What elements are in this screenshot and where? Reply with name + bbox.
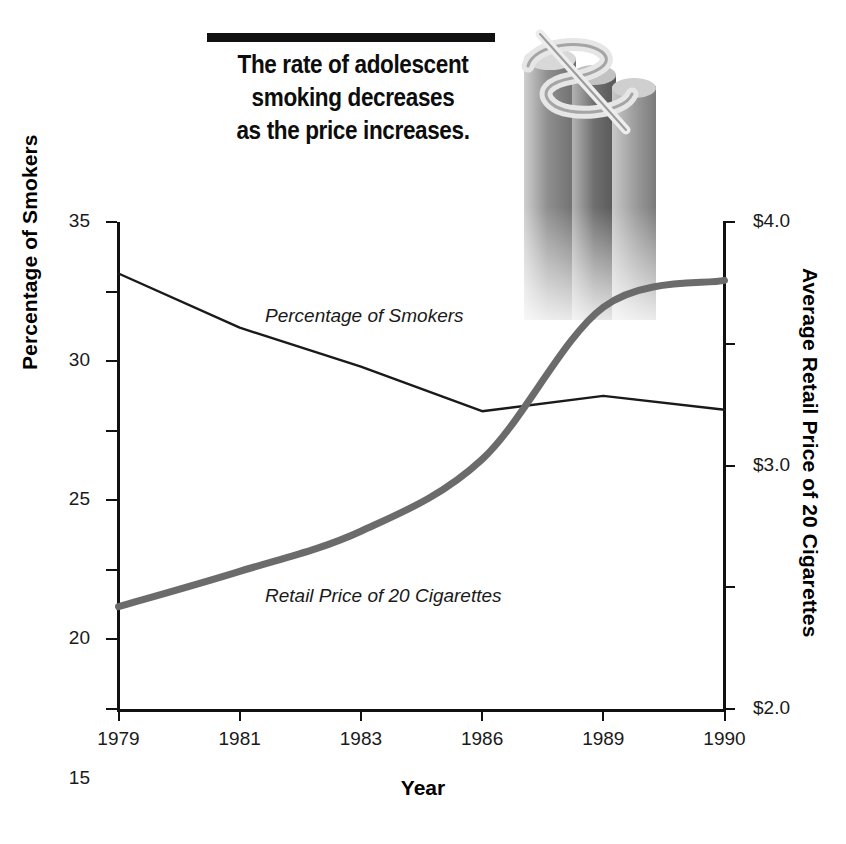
x-tick-label: 1986	[461, 728, 503, 750]
x-tick-label: 1981	[219, 728, 261, 750]
y-tick-left: 30	[106, 291, 117, 293]
y-axis-title-right: Average Retail Price of 20 Cigarettes	[798, 268, 822, 637]
y-tick-label-left: 30	[69, 349, 90, 371]
y-tick-label-right: $4.0	[753, 210, 790, 232]
plot-area: 05101520253035 $3.0$1.0$2.0$3.0$4.0 1979…	[117, 222, 726, 712]
y-tick-label-right: $3.0	[753, 454, 790, 476]
y-tick-label-left: 35	[69, 210, 90, 232]
series-label-price: Retail Price of 20 Cigarettes	[265, 585, 502, 607]
title-line-1: The rate of adolescent	[205, 48, 502, 81]
x-axis-title: Year	[0, 776, 846, 800]
page-title: The rate of adolescent smoking decreases…	[205, 48, 502, 147]
y-axis-title-left: Percentage of Smokers	[18, 134, 42, 370]
y-tick-label-left: 20	[69, 627, 90, 649]
y-tick-left: 20	[106, 430, 117, 432]
title-line-3: as the price increases.	[205, 114, 502, 147]
chart-page: The rate of adolescent smoking decreases…	[0, 0, 846, 844]
x-tick-label: 1983	[340, 728, 382, 750]
x-tick-label: 1989	[582, 728, 624, 750]
line-price	[119, 280, 725, 606]
y-tick-left: 0	[106, 708, 117, 710]
series-label-smokers: Percentage of Smokers	[265, 305, 464, 327]
title-rule	[207, 33, 495, 42]
title-line-2: smoking decreases	[205, 81, 502, 114]
y-tick-label-left: 15	[69, 767, 90, 789]
y-tick-left: 35	[106, 221, 117, 223]
series-lines	[117, 222, 726, 712]
x-tick-label: 1990	[703, 728, 745, 750]
y-tick-left: 15	[106, 499, 117, 501]
y-tick-label-left: 25	[69, 488, 90, 510]
y-tick-label-right: $2.0	[753, 697, 790, 719]
y-tick-left: 10	[106, 569, 117, 571]
y-tick-left: 5	[106, 638, 117, 640]
x-tick-label: 1979	[97, 728, 139, 750]
y-tick-left: 25	[106, 360, 117, 362]
